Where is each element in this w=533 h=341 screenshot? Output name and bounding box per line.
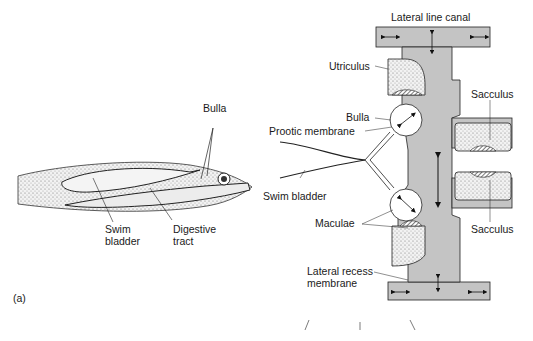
lateral-recess-membrane-label-line1: Lateral recess [307, 266, 373, 277]
sacculus-top-label: Sacculus [471, 89, 514, 100]
fish-swim-bladder-label-line2: bladder [105, 236, 140, 247]
lateral-line-canal-label: Lateral line canal [391, 12, 470, 23]
swim-bladder-label: Swim bladder [263, 191, 327, 202]
diagram-canvas [0, 0, 533, 341]
lateral-recess-membrane-label-line2: membrane [307, 278, 357, 289]
prootic-membrane-label: Prootic membrane [269, 126, 355, 137]
sacculus-bottom-label: Sacculus [471, 224, 514, 235]
fish-digestive-tract-label-line2: tract [173, 236, 193, 247]
utriculus-label: Utriculus [329, 61, 370, 72]
maculae-label: Maculae [315, 218, 355, 229]
ear-bulla-label: Bulla [346, 112, 369, 123]
fish-bulla-label: Bulla [203, 103, 226, 114]
fish-illustration [18, 128, 252, 222]
fish-digestive-tract-label-line1: Digestive [173, 224, 216, 235]
panel-label: (a) [13, 293, 26, 304]
fish-swim-bladder-label-line1: Swim [105, 224, 131, 235]
